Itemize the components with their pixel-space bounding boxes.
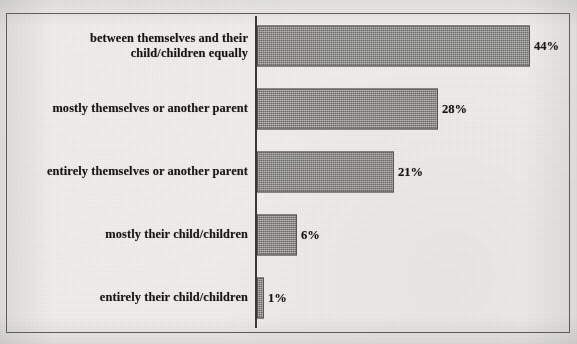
chart-page: between themselves and their child/child… (0, 0, 577, 344)
bar (257, 214, 297, 255)
bar (257, 88, 438, 129)
category-label: mostly their child/children (10, 227, 248, 242)
bar (257, 25, 530, 66)
category-label: mostly themselves or another parent (10, 101, 248, 116)
bar-value-label: 6% (301, 227, 320, 242)
category-label-line1: entirely themselves or another parent (10, 164, 248, 179)
bar-rows: between themselves and their child/child… (6, 13, 570, 333)
bar-row: between themselves and their child/child… (6, 14, 570, 77)
bar-row: entirely their child/children 1% (6, 266, 570, 329)
category-label-line1: between themselves and their (10, 30, 248, 45)
bar-value-label: 1% (268, 290, 287, 305)
category-label-line2: child/children equally (10, 46, 248, 61)
category-label: entirely themselves or another parent (10, 164, 248, 179)
bar-row: mostly themselves or another parent 28% (6, 77, 570, 140)
category-label-line1: mostly their child/children (10, 227, 248, 242)
bar-value-label: 44% (534, 38, 559, 53)
bar-row: mostly their child/children 6% (6, 203, 570, 266)
bar (257, 277, 264, 318)
category-label-line1: entirely their child/children (10, 290, 248, 305)
category-label: between themselves and their child/child… (10, 30, 248, 60)
bar (257, 151, 394, 192)
bar-value-label: 28% (442, 101, 467, 116)
bar-row: entirely themselves or another parent 21… (6, 140, 570, 203)
bar-value-label: 21% (398, 164, 423, 179)
category-label: entirely their child/children (10, 290, 248, 305)
category-label-line1: mostly themselves or another parent (10, 101, 248, 116)
plot-area: between themselves and their child/child… (6, 13, 570, 333)
